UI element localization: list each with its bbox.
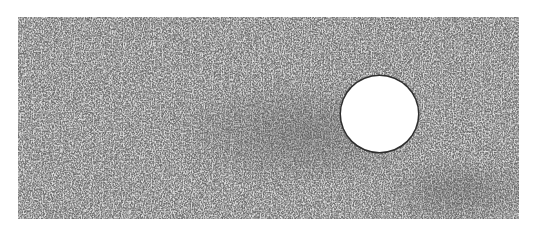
flow-visualization-image [18,17,519,219]
circular-obstacle [341,76,418,152]
particle-texture [18,17,519,219]
